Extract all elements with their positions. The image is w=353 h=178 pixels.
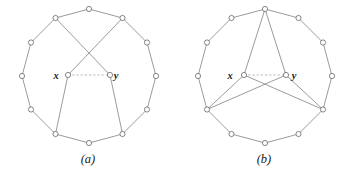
- outer-vertex: [19, 73, 24, 78]
- polygon-edge: [207, 18, 232, 43]
- outer-vertex: [86, 140, 91, 145]
- outer-vertex: [153, 73, 158, 78]
- outer-vertex: [320, 107, 325, 112]
- spoke-edge: [207, 75, 244, 110]
- vertex-label-x: x: [226, 70, 232, 81]
- polygon-edge: [147, 76, 156, 110]
- polygon-edge: [123, 18, 148, 43]
- figure-board: x y (a) x y (b): [0, 0, 353, 178]
- inner-vertex-y: [107, 72, 112, 77]
- panel-b-ring-edges: [198, 9, 332, 143]
- polygon-edge: [56, 134, 90, 143]
- spoke-edge: [68, 18, 123, 75]
- panel-caption-a: (a): [81, 152, 96, 166]
- polygon-edge: [299, 18, 324, 43]
- polygon-edge: [232, 9, 266, 18]
- vertex-label-y: y: [112, 70, 119, 81]
- polygon-edge: [299, 110, 324, 135]
- outer-vertex: [86, 6, 91, 11]
- outer-vertex: [229, 15, 234, 20]
- polygon-edge: [198, 76, 207, 110]
- panel-b-spoke-edges: [207, 9, 323, 110]
- spoke-edge: [244, 9, 265, 75]
- polygon-edge: [265, 134, 299, 143]
- polygon-edge: [22, 43, 31, 77]
- inner-vertex-x: [65, 72, 70, 77]
- polygon-edge: [147, 43, 156, 77]
- polygon-edge: [56, 9, 90, 18]
- panel-a-ring-edges: [22, 9, 156, 143]
- outer-vertex: [53, 131, 58, 136]
- polygon-edge: [323, 43, 332, 77]
- outer-vertex: [229, 131, 234, 136]
- outer-vertex: [53, 15, 58, 20]
- inner-vertex-x: [241, 72, 246, 77]
- polygon-edge: [265, 9, 299, 18]
- vertex-label-y: y: [290, 70, 297, 81]
- outer-vertex: [204, 107, 209, 112]
- outer-vertex: [28, 40, 33, 45]
- outer-vertex: [120, 131, 125, 136]
- vertex-label-x: x: [52, 70, 58, 81]
- polygon-edge: [123, 110, 148, 135]
- outer-vertex: [144, 107, 149, 112]
- polygon-edge: [232, 134, 266, 143]
- panel-a-outer-vertices: [19, 6, 158, 145]
- outer-vertex: [262, 140, 267, 145]
- polygon-edge: [323, 76, 332, 110]
- panel-caption-b: (b): [257, 152, 272, 166]
- polygon-edge: [89, 9, 123, 18]
- polygon-edge: [207, 110, 232, 135]
- outer-vertex: [144, 40, 149, 45]
- outer-vertex: [204, 40, 209, 45]
- figure-panel-a: x y (a): [0, 0, 176, 178]
- outer-vertex: [28, 107, 33, 112]
- spoke-edge: [56, 18, 111, 75]
- figure-panel-b: x y (b): [176, 0, 353, 178]
- outer-vertex: [329, 73, 334, 78]
- outer-vertex: [262, 6, 267, 11]
- outer-vertex: [296, 131, 301, 136]
- spoke-edge: [207, 75, 286, 110]
- outer-vertex: [296, 15, 301, 20]
- polygon-edge: [22, 76, 31, 110]
- panel-b-outer-vertices: [195, 6, 334, 145]
- polygon-edge: [31, 18, 56, 43]
- spoke-edge: [265, 9, 286, 75]
- outer-vertex: [195, 73, 200, 78]
- outer-vertex: [320, 40, 325, 45]
- polygon-edge: [31, 110, 56, 135]
- spoke-edge: [244, 75, 323, 110]
- spoke-edge: [110, 75, 123, 134]
- outer-vertex: [120, 15, 125, 20]
- spoke-edge: [56, 75, 69, 134]
- polygon-edge: [198, 43, 207, 77]
- inner-vertex-y: [283, 72, 288, 77]
- polygon-edge: [89, 134, 123, 143]
